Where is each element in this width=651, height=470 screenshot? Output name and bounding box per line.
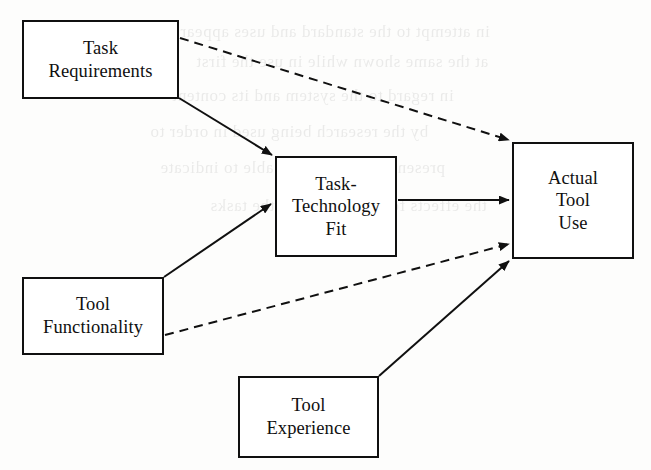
node-label: TaskRequirements bbox=[45, 37, 157, 82]
node-task-technology-fit: Task-TechnologyFit bbox=[275, 156, 397, 257]
diagram-canvas: in attempt to the standard and uses appe… bbox=[0, 0, 651, 470]
edge-task-requirements-to-task-technology-fit bbox=[179, 98, 272, 155]
node-label: ActualToolUse bbox=[544, 167, 602, 235]
node-task-requirements: TaskRequirements bbox=[22, 20, 179, 99]
node-label: ToolFunctionality bbox=[39, 293, 147, 338]
edge-tool-experience-to-actual-tool-use bbox=[379, 261, 509, 376]
edge-tool-functionality-to-actual-tool-use bbox=[165, 244, 509, 335]
edge-tool-functionality-to-task-technology-fit bbox=[164, 204, 271, 277]
node-actual-tool-use: ActualToolUse bbox=[512, 142, 634, 259]
node-tool-experience: ToolExperience bbox=[238, 376, 379, 458]
node-tool-functionality: ToolFunctionality bbox=[22, 277, 164, 355]
edge-task-requirements-to-actual-tool-use bbox=[180, 38, 509, 140]
node-label: Task-TechnologyFit bbox=[288, 173, 384, 241]
node-label: ToolExperience bbox=[262, 394, 354, 439]
